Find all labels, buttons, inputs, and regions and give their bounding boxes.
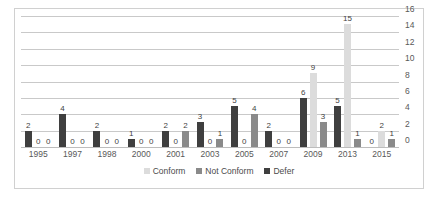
bar-slot-2003-notconform: 1 xyxy=(215,16,225,147)
bar-value-label-notconform-2013: 1 xyxy=(355,130,359,138)
legend-label-conform: Conform xyxy=(153,167,186,176)
bar-slot-2003-conform: 0 xyxy=(205,16,215,147)
bar-slot-2015-defer: 0 xyxy=(367,16,377,147)
bar-slot-1997-conform: 0 xyxy=(68,16,78,147)
bar-slot-1998-defer: 2 xyxy=(92,16,102,147)
bar-value-label-defer-2015: 0 xyxy=(370,138,374,146)
legend-item-conform[interactable]: Conform xyxy=(144,167,186,176)
bar-defer-1995[interactable]: 2 xyxy=(25,131,32,147)
bar-group-2005: 504 xyxy=(227,16,261,147)
bar-group-2000: 100 xyxy=(124,16,158,147)
bar-value-label-conform-2005: 0 xyxy=(242,138,246,146)
bar-slot-1998-notconform: 0 xyxy=(112,16,122,147)
bar-defer-2003[interactable]: 3 xyxy=(197,122,204,147)
bar-slot-2001-conform: 0 xyxy=(171,16,181,147)
bar-slot-2000-conform: 0 xyxy=(136,16,146,147)
bar-group-2009: 693 xyxy=(296,16,330,147)
bar-value-label-notconform-2003: 1 xyxy=(218,130,222,138)
bar-slot-2007-defer: 2 xyxy=(264,16,274,147)
y-axis: 1614121086420 xyxy=(405,9,431,147)
bar-slot-2001-notconform: 2 xyxy=(181,16,191,147)
bar-group-2015: 021 xyxy=(365,16,399,147)
bar-notconform-2003[interactable]: 1 xyxy=(216,139,223,147)
y-axis-tick-10: 10 xyxy=(405,53,429,63)
bar-defer-2005[interactable]: 5 xyxy=(231,106,238,147)
bar-slot-2003-defer: 3 xyxy=(195,16,205,147)
bar-group-1998: 200 xyxy=(90,16,124,147)
bar-value-label-conform-2015: 2 xyxy=(380,122,384,130)
bar-defer-2000[interactable]: 1 xyxy=(128,139,135,147)
legend-swatch-defer xyxy=(264,168,270,174)
x-axis-tick-2007: 2007 xyxy=(269,149,288,159)
legend-swatch-conform xyxy=(144,168,150,174)
bar-defer-2007[interactable]: 2 xyxy=(265,131,272,147)
y-axis-tick-4: 4 xyxy=(405,102,429,112)
bar-slot-2007-notconform: 0 xyxy=(284,16,294,147)
bar-value-label-defer-2007: 2 xyxy=(267,122,271,130)
bar-slot-2013-notconform: 1 xyxy=(352,16,362,147)
bar-notconform-2013[interactable]: 1 xyxy=(354,139,361,147)
bar-value-label-defer-1998: 2 xyxy=(95,122,99,130)
bar-slot-2000-defer: 1 xyxy=(126,16,136,147)
bar-value-label-defer-1997: 4 xyxy=(60,105,64,113)
y-axis-tick-8: 8 xyxy=(405,70,429,80)
bar-slot-1995-notconform: 0 xyxy=(43,16,53,147)
bar-group-2007: 200 xyxy=(262,16,296,147)
bar-value-label-defer-2001: 2 xyxy=(163,122,167,130)
bar-defer-2013[interactable]: 5 xyxy=(334,106,341,147)
bar-conform-2015[interactable]: 2 xyxy=(378,131,385,147)
bar-conform-2013[interactable]: 15 xyxy=(344,24,351,147)
legend-item-notconform[interactable]: Not Conform xyxy=(196,167,253,176)
bar-defer-1997[interactable]: 4 xyxy=(59,114,66,147)
bar-slot-2013-conform: 15 xyxy=(342,16,352,147)
bar-value-label-notconform-2009: 3 xyxy=(321,113,325,121)
x-axis-tick-2015: 2015 xyxy=(372,149,391,159)
x-axis-tick-2005: 2005 xyxy=(235,149,254,159)
bar-group-1995: 200 xyxy=(21,16,55,147)
bar-group-2001: 202 xyxy=(158,16,192,147)
bar-defer-2009[interactable]: 6 xyxy=(300,98,307,147)
y-axis-tick-2: 2 xyxy=(405,119,429,129)
bar-slot-2009-notconform: 3 xyxy=(318,16,328,147)
bar-slot-1997-defer: 4 xyxy=(58,16,68,147)
bar-slot-2007-conform: 0 xyxy=(274,16,284,147)
y-axis-tick-14: 14 xyxy=(405,20,429,30)
bar-value-label-notconform-1997: 0 xyxy=(80,138,84,146)
bar-value-label-conform-2007: 0 xyxy=(276,138,280,146)
bar-group-1997: 400 xyxy=(55,16,89,147)
bar-value-label-conform-2001: 0 xyxy=(173,138,177,146)
chart-container: 2004002001002023015042006935151021 16141… xyxy=(14,8,424,189)
plot-area: 2004002001002023015042006935151021 xyxy=(21,16,399,147)
x-axis-tick-2013: 2013 xyxy=(338,149,357,159)
bar-conform-2009[interactable]: 9 xyxy=(310,73,317,147)
bar-notconform-2001[interactable]: 2 xyxy=(182,131,189,147)
bar-slot-1995-defer: 2 xyxy=(23,16,33,147)
bar-value-label-defer-2013: 5 xyxy=(335,97,339,105)
bar-notconform-2015[interactable]: 1 xyxy=(388,139,395,147)
bar-slot-2015-notconform: 1 xyxy=(387,16,397,147)
x-axis-tick-1997: 1997 xyxy=(63,149,82,159)
y-axis-tick-12: 12 xyxy=(405,37,429,47)
bar-defer-1998[interactable]: 2 xyxy=(93,131,100,147)
bar-value-label-notconform-1998: 0 xyxy=(115,138,119,146)
bar-value-label-notconform-2007: 0 xyxy=(286,138,290,146)
bar-value-label-notconform-2001: 2 xyxy=(183,122,187,130)
bar-defer-2001[interactable]: 2 xyxy=(162,131,169,147)
x-axis-tick-2001: 2001 xyxy=(166,149,185,159)
bar-value-label-conform-2009: 9 xyxy=(311,64,315,72)
bar-slot-2001-defer: 2 xyxy=(161,16,171,147)
bar-notconform-2005[interactable]: 4 xyxy=(251,114,258,147)
legend-label-defer: Defer xyxy=(273,167,294,176)
y-axis-tick-0: 0 xyxy=(405,135,429,145)
bar-group-2003: 301 xyxy=(193,16,227,147)
bar-slot-1997-notconform: 0 xyxy=(78,16,88,147)
bar-slot-2005-notconform: 4 xyxy=(249,16,259,147)
y-axis-tick-16: 16 xyxy=(405,4,429,14)
bar-value-label-conform-1997: 0 xyxy=(70,138,74,146)
x-axis-tick-2003: 2003 xyxy=(201,149,220,159)
legend-item-defer[interactable]: Defer xyxy=(264,167,294,176)
bar-notconform-2009[interactable]: 3 xyxy=(320,122,327,147)
legend-swatch-notconform xyxy=(196,168,202,174)
bar-value-label-conform-2000: 0 xyxy=(139,138,143,146)
bar-value-label-defer-1995: 2 xyxy=(26,122,30,130)
